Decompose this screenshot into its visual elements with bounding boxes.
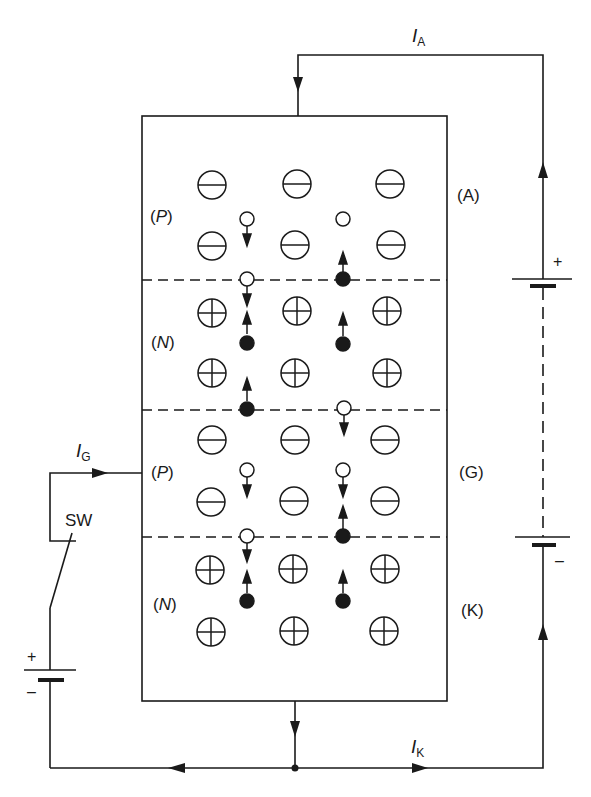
cathode-junction-dot — [292, 765, 299, 772]
acceptor-ion-icon — [197, 488, 225, 516]
layer-label-n2: (N) — [153, 596, 177, 613]
hole-carrier-icon — [240, 212, 254, 246]
acceptor-ion-icon — [281, 426, 309, 454]
electron-carrier-icon — [336, 252, 350, 286]
donor-ion-icon — [280, 617, 308, 645]
electron-carrier-icon — [240, 571, 254, 608]
donor-ion-icon — [373, 359, 401, 387]
gate-wire — [50, 473, 142, 541]
switch-blade — [50, 533, 72, 608]
electron-carrier-icon — [336, 506, 350, 543]
cathode-left-arrow — [168, 763, 185, 773]
acceptor-ion-icon — [376, 170, 404, 198]
hole-carrier-icon — [336, 463, 350, 497]
anode-terminal-label: (A) — [457, 187, 480, 204]
layer-label-p2: (P) — [151, 464, 174, 481]
hole-carrier-icon — [336, 212, 350, 226]
anode-battery-arrow — [538, 162, 548, 178]
acceptor-ion-icon — [198, 426, 226, 454]
acceptor-ion-icon — [281, 231, 309, 259]
acceptor-ion-icon — [283, 170, 311, 198]
hole-carrier-icon — [337, 401, 351, 435]
acceptor-ion-icon — [371, 487, 399, 515]
layer-label-n1: (N) — [151, 334, 175, 351]
donor-ion-icon — [283, 297, 311, 325]
gate-battery-plus-sign: + — [27, 649, 36, 665]
donor-ion-icon — [198, 359, 226, 387]
electron-carrier-icon — [336, 313, 350, 351]
layer-label-p1: (P) — [150, 208, 173, 225]
donor-ion-icon — [370, 617, 398, 645]
cathode-terminal-label: (K) — [461, 602, 484, 619]
cathode-current-label: IK — [411, 737, 424, 759]
electron-carrier-icon — [240, 312, 254, 350]
acceptor-ion-icon — [198, 171, 226, 199]
hole-carrier-icon — [240, 463, 254, 497]
cathode-return-wire-right — [50, 545, 543, 768]
gate-current-arrow — [92, 468, 108, 478]
anode-wire — [298, 55, 543, 279]
donor-ion-icon — [371, 555, 399, 583]
gate-terminal-label: (G) — [459, 464, 484, 481]
donor-ion-icon — [281, 359, 309, 387]
anode-battery-plus-sign: + — [553, 254, 562, 270]
donor-ion-icon — [198, 299, 226, 327]
electron-carrier-icon — [336, 571, 350, 608]
cathode-right-arrow — [412, 763, 428, 773]
donor-ion-icon — [197, 618, 225, 646]
acceptor-ion-icon — [377, 231, 405, 259]
switch-label: SW — [65, 512, 92, 529]
device-body — [142, 116, 447, 701]
acceptor-ion-icon — [280, 487, 308, 515]
acceptor-ion-icon — [198, 232, 226, 260]
gate-current-label: IG — [76, 441, 91, 463]
anode-current-label: IA — [412, 26, 425, 48]
gate-battery-minus-sign: – — [27, 684, 36, 700]
acceptor-ion-icon — [371, 426, 399, 454]
cathode-battery-arrow — [538, 624, 548, 640]
donor-ion-icon — [279, 555, 307, 583]
hole-carrier-icon — [240, 529, 254, 562]
electron-carrier-icon — [240, 378, 254, 416]
hole-carrier-icon — [240, 272, 254, 306]
donor-ion-icon — [373, 297, 401, 325]
cathode-battery-minus-sign: – — [555, 553, 564, 569]
thyristor-circuit-diagram — [0, 0, 591, 797]
anode-current-arrow — [293, 77, 303, 92]
donor-ion-icon — [196, 556, 224, 584]
cathode-current-arrow — [290, 721, 300, 737]
